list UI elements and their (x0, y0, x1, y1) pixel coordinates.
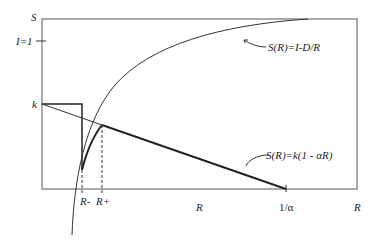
x-tick-r-minus: R- (80, 196, 90, 207)
x-tick-r-plus: R+ (96, 196, 110, 207)
y-tick-top-label: I=1 (16, 36, 33, 47)
curve-segment-thick (82, 125, 102, 170)
x-axis-label: R (354, 202, 361, 213)
x-tick-r: R (196, 202, 203, 213)
y-axis-label: S (31, 12, 37, 23)
diagram-canvas (0, 0, 371, 245)
curve-formula: S(R)=I-D/R (268, 42, 320, 53)
line-formula: S(R)=k(1 - αR) (266, 150, 332, 161)
leader-line (246, 155, 268, 166)
leader-curve (244, 40, 266, 47)
x-tick-inv-alpha-label: 1/α (279, 202, 293, 213)
step-function (42, 104, 82, 170)
y-tick-k-label: k (32, 99, 37, 110)
line-k-thick (102, 125, 286, 189)
